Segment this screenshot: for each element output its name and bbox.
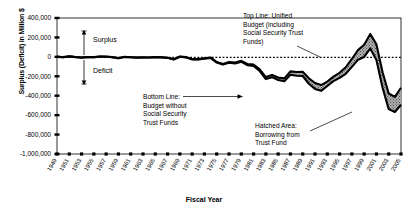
y-axis-tick-label: -200,000 <box>25 73 51 80</box>
x-axis-tick-label: 1987 <box>279 157 291 172</box>
y-axis-tick-label: 200,000 <box>28 34 52 41</box>
bottom-line-annotation-line-4: Trust Funds <box>143 119 179 126</box>
x-axis-tick-label: 1957 <box>95 157 107 172</box>
plot-canvas: 400,000200,0000-200,000-400,000-600,000-… <box>0 0 408 209</box>
bottom-line-annotation-line-1: Bottom Line: <box>143 93 180 100</box>
x-axis-tick-label: 1953 <box>71 157 83 172</box>
deficit-arrow-label: Deficit <box>93 67 113 74</box>
deficit-arrow: Deficit <box>81 60 112 85</box>
x-axis-tick-label: 1985 <box>267 157 279 172</box>
x-axis-tick-label: 1993 <box>316 157 328 172</box>
x-axis-tick-label: 1963 <box>132 157 144 172</box>
x-axis-tick-label: 1973 <box>193 157 205 172</box>
bottom-line-annotation-line-3: Social Security <box>143 110 187 118</box>
x-axis-tick-label: 1955 <box>83 157 95 172</box>
x-axis-tick-label: 1977 <box>218 157 230 172</box>
x-axis-tick-label: 1965 <box>144 157 156 172</box>
top-line-annotation-line-3: Social Security Trust <box>243 29 303 37</box>
surplus-arrow-label: Surplus <box>93 36 117 44</box>
y-axis-tick-label: 0 <box>47 53 51 60</box>
x-axis-tick-label: 1961 <box>120 157 132 172</box>
x-axis-tick-label: 1967 <box>157 157 169 172</box>
x-axis-tick-label: 1997 <box>341 157 353 172</box>
top-line-leader <box>297 46 320 57</box>
top-line-annotation-line-4: Funds) <box>243 38 264 46</box>
x-axis-tick-label: 1999 <box>353 157 365 172</box>
top-line-annotation: Top Line: Unified Budget (including Soci… <box>243 12 320 57</box>
x-axis-tick-label: 1951 <box>58 157 70 172</box>
x-axis-tick-label: 1969 <box>169 157 181 172</box>
hatched-annotation-line-2: Borrowing from <box>255 131 300 139</box>
x-axis-tick-label: 1989 <box>292 157 304 172</box>
x-axis-tick-label: 1975 <box>206 157 218 172</box>
bottom-line-annotation-line-2: Budget without <box>143 102 187 110</box>
hatched-area-annotation: Hatched Area: Borrowing from Trust Fund <box>255 112 352 146</box>
x-axis-tick-label: 2003 <box>378 157 390 172</box>
x-axis-tick-label: 1979 <box>230 157 242 172</box>
hatched-annotation-line-1: Hatched Area: <box>255 122 297 129</box>
x-axis-tick-label: 1991 <box>304 157 316 172</box>
x-axis-tick-label: 1995 <box>329 157 341 172</box>
top-line-annotation-line-1: Top Line: Unified <box>243 12 292 20</box>
x-axis-tick-label: 1959 <box>107 157 119 172</box>
y-axis-tick-label: -400,000 <box>25 92 51 99</box>
y-axis-tick-label: -800,000 <box>25 131 51 138</box>
x-axis-ticks: 1949195119531955195719591961196319651967… <box>46 152 402 172</box>
x-axis-tick-label: 1981 <box>243 157 255 172</box>
x-axis-tick-label: 2001 <box>365 157 377 172</box>
x-axis-tick-label: 2005 <box>390 157 402 172</box>
y-axis-ticks: 400,000200,0000-200,000-400,000-600,000-… <box>20 14 60 157</box>
bottom-line-annotation: Bottom Line: Budget without Social Secur… <box>143 93 243 126</box>
x-axis-tick-label: 1949 <box>46 157 58 172</box>
y-axis-tick-label: -600,000 <box>25 111 51 118</box>
x-axis-tick-label: 1971 <box>181 157 193 172</box>
top-line-annotation-line-2: Budget (including <box>243 21 294 29</box>
y-axis-tick-label: -1,000,000 <box>20 150 51 157</box>
chart-figure: Surplus (Deficit) in Million $ Fiscal Ye… <box>0 0 408 209</box>
x-axis-tick-label: 1983 <box>255 157 267 172</box>
hatched-annotation-line-3: Trust Fund <box>255 139 287 146</box>
hatched-area-leader <box>310 112 352 131</box>
y-axis-tick-label: 400,000 <box>28 14 52 21</box>
surplus-arrow: Surplus <box>81 30 117 55</box>
